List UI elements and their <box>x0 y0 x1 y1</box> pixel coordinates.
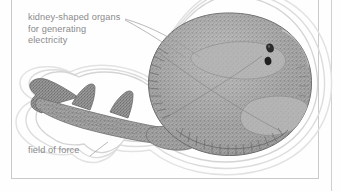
label-kidney-shaped-organs: kidney-shaped organs for generating elec… <box>28 12 120 47</box>
label-field-of-force: field of force <box>28 145 79 157</box>
dorsal-fin-front <box>110 91 133 118</box>
figure-panel: kidney-shaped organs for generating elec… <box>0 0 341 191</box>
electric-organ-lower <box>241 96 309 135</box>
leader-field-of-force <box>90 142 108 156</box>
